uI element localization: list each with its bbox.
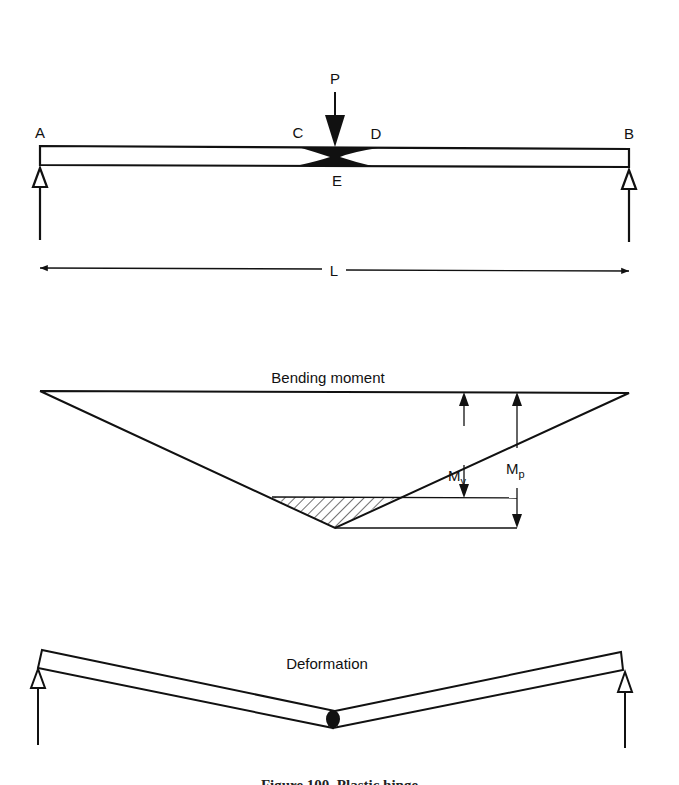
support-label-b: B [624,125,634,142]
support-left-arrow [33,168,47,240]
figure-caption: Figure 100. Plastic hinge [0,774,679,785]
plastic-moment-label: Mp [506,460,525,480]
bending-moment-diagram: Bending moment My Mp [40,369,629,528]
deformation-support-right-arrow [618,672,632,748]
plastic-zone-hatch [272,497,397,528]
support-right-arrow [622,170,636,242]
load-label-p: P [330,70,340,87]
hinge-label-c: C [293,124,304,141]
deformed-beam-right [333,652,623,728]
deformation-title: Deformation [286,655,368,672]
load-arrow-p [325,92,345,147]
beam-diagram: P A B C D E L [33,70,636,279]
deformation-support-left-arrow [31,669,45,745]
span-label-l: L [330,262,338,279]
deformation-diagram: Deformation [31,650,632,748]
plastic-hinge-figure: P A B C D E L Bending moment [0,0,679,785]
bending-moment-title: Bending moment [271,369,385,386]
plastic-hinge-region [298,147,378,166]
hinge-label-e: E [332,172,342,189]
plastic-hinge-dot [326,710,340,728]
support-label-a: A [35,124,45,141]
hinge-label-d: D [371,125,382,142]
